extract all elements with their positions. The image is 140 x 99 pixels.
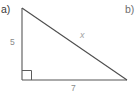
- vertical-leg-label: 5: [10, 38, 15, 47]
- base-leg-label: 7: [71, 84, 76, 93]
- right-triangle-diagram: [0, 0, 140, 99]
- right-angle-marker-icon: [22, 71, 32, 81]
- hypotenuse-line: [22, 8, 127, 80]
- figure-canvas: a) b) 5 7 x: [0, 0, 140, 99]
- hypotenuse-label: x: [80, 31, 85, 40]
